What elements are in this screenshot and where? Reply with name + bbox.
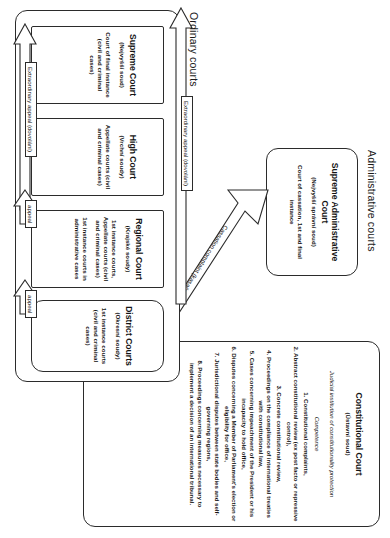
appeal-high-regional-label: appeal bbox=[25, 200, 37, 228]
extraordinary-appeal-top-label: Extraordinary appeal (dovolání) bbox=[181, 96, 193, 191]
extraordinary-appeal-bottom-label: Extraordinary appeal (dovolání) bbox=[25, 62, 37, 157]
competence-item: 1. Constitutional complaints, bbox=[303, 346, 310, 522]
supreme-administrative-court-native: (Nejvyšší správní soud) bbox=[311, 153, 318, 271]
regional-court-role: 1st instance courts, Appellate courts (c… bbox=[95, 215, 118, 283]
high-court-box: High Court (Vrchní soudy) Appellate cour… bbox=[31, 118, 164, 196]
district-courts-content: District Courts (Okresní soudy) 1st inst… bbox=[85, 301, 133, 371]
constitutional-court-native: (Ústavní soud) bbox=[345, 346, 352, 522]
district-courts-native: (Okresní soudy) bbox=[115, 305, 122, 367]
supreme-administrative-court-name: Supreme Administrative Court bbox=[319, 153, 339, 271]
supreme-court-box: Supreme Court (Nejvyšší soud) Court of f… bbox=[31, 26, 164, 104]
regional-court-role-administrative: 1st instance courts in administrative ca… bbox=[73, 215, 89, 283]
competence-item: 2. Abstract constitutional review (ex po… bbox=[285, 346, 300, 522]
supreme-administrative-court-content: Supreme Administrative Court (Nejvyšší s… bbox=[289, 149, 339, 275]
district-courts-role: 1st instance courts (civil and criminal … bbox=[85, 305, 108, 367]
supreme-court-content: Supreme Court (Nejvyšší soud) Court of f… bbox=[89, 27, 137, 103]
regional-court-box: Regional Court (Krajské soudy) 1st insta… bbox=[31, 210, 164, 288]
supreme-court-name: Supreme Court bbox=[127, 31, 137, 99]
high-court-role: Appellate courts (civil and criminal cas… bbox=[97, 123, 113, 191]
competence-item: 3. Concrete constitutional review, bbox=[275, 346, 282, 522]
supreme-administrative-court-box: Supreme Administrative Court (Nejvyšší s… bbox=[266, 148, 358, 276]
regional-court-native: (Krajské soudy) bbox=[125, 215, 132, 283]
high-court-content: High Court (Vrchní soudy) Appellate cour… bbox=[97, 119, 138, 195]
supreme-administrative-court-role: Court of cassation, 1st and final instan… bbox=[289, 153, 305, 271]
high-court-native: (Vrchní soudy) bbox=[119, 123, 126, 191]
supreme-court-role: Court of final instance (civil and crimi… bbox=[89, 31, 112, 99]
district-courts-name: District Courts bbox=[123, 305, 133, 367]
court-system-diagram: Constitutional Court (Ústavní soud) Judi… bbox=[0, 0, 390, 538]
supreme-court-native: (Nejvyšší soud) bbox=[119, 31, 126, 99]
regional-court-content: Regional Court (Krajské soudy) 1st insta… bbox=[73, 211, 143, 287]
high-court-name: High Court bbox=[127, 123, 137, 191]
constitutional-court-name: Constitutional Court bbox=[353, 346, 363, 522]
regional-court-name: Regional Court bbox=[133, 215, 143, 283]
administrative-courts-section-label: Administrative courts bbox=[366, 150, 378, 252]
constitutional-court-subtitle: Judicial institution of constitutionalit… bbox=[328, 346, 336, 522]
appeal-regional-district-label: appeal bbox=[25, 290, 37, 318]
diagram-rotation-frame: Constitutional Court (Ústavní soud) Judi… bbox=[0, 0, 390, 538]
district-courts-box: District Courts (Okresní soudy) 1st inst… bbox=[31, 300, 164, 372]
competence-heading: Competence bbox=[314, 346, 321, 522]
